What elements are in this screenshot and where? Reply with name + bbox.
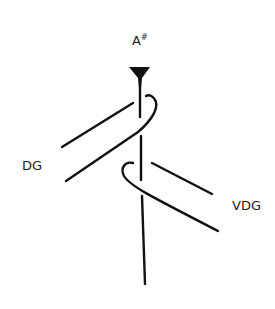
label-top-superscript: #	[141, 33, 148, 42]
main-strand-lower	[142, 196, 145, 284]
knot-diagram: A# DG VDG	[0, 0, 275, 309]
dg-strand-lower	[66, 95, 156, 181]
label-vdg: VDG	[232, 199, 261, 212]
label-top: A#	[132, 34, 148, 47]
label-top-text: A	[132, 33, 141, 48]
label-dg: DG	[22, 159, 42, 172]
dg-strand-upper	[62, 103, 133, 147]
vdg-strand-upper	[152, 163, 212, 194]
